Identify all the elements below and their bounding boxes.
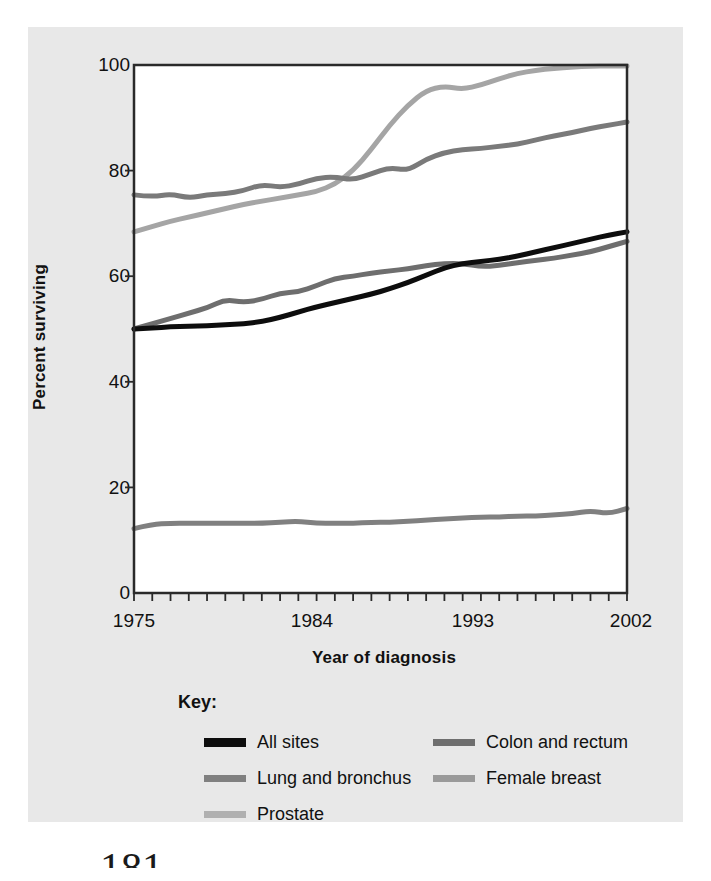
legend-label-colon-and-rectum: Colon and rectum bbox=[486, 732, 628, 753]
legend-swatch-all-sites bbox=[204, 738, 246, 747]
chart-legend: Key: All sites Colon and rectum Lung and… bbox=[28, 692, 683, 822]
legend-label-prostate: Prostate bbox=[257, 804, 324, 825]
x-axis-title: Year of diagnosis bbox=[134, 648, 634, 668]
page-number: 181 bbox=[100, 846, 163, 868]
legend-item-all-sites[interactable]: All sites bbox=[204, 729, 319, 755]
figure-panel: Percent surviving Year of diagnosis 100 … bbox=[28, 27, 683, 822]
legend-item-colon-and-rectum[interactable]: Colon and rectum bbox=[433, 729, 628, 755]
legend-item-lung-and-bronchus[interactable]: Lung and bronchus bbox=[204, 765, 411, 791]
legend-item-prostate[interactable]: Prostate bbox=[204, 801, 324, 827]
legend-swatch-prostate bbox=[204, 811, 246, 818]
legend-item-female-breast[interactable]: Female breast bbox=[433, 765, 601, 791]
legend-label-all-sites: All sites bbox=[257, 732, 319, 753]
chart-canvas bbox=[28, 27, 683, 647]
legend-swatch-colon-and-rectum bbox=[433, 739, 475, 746]
chart-plot-area: Percent surviving Year of diagnosis 100 … bbox=[28, 27, 683, 727]
legend-swatch-lung-and-bronchus bbox=[204, 775, 246, 782]
legend-swatch-female-breast bbox=[433, 775, 475, 782]
legend-label-lung-and-bronchus: Lung and bronchus bbox=[257, 768, 411, 789]
legend-label-female-breast: Female breast bbox=[486, 768, 601, 789]
legend-title: Key: bbox=[178, 692, 217, 713]
